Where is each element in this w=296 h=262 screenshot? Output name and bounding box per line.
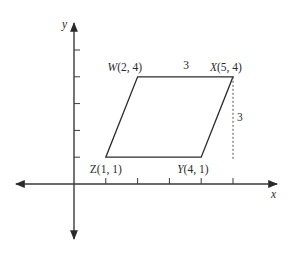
parallelogram-wxyz (106, 77, 233, 157)
x-axis-ticks (106, 178, 233, 184)
height-length-label: 3 (237, 111, 243, 123)
y-axis-label: y (61, 18, 68, 31)
vertex-label-x: X(5, 4) (209, 61, 242, 74)
y-axis-ticks (74, 50, 80, 157)
vertex-label-z: Z(1, 1) (90, 163, 122, 176)
coordinate-diagram: x y W(2, 4) X(5, 4) Y(4, 1) Z(1, 1) 3 3 (0, 0, 296, 262)
top-side-length-label: 3 (183, 59, 189, 71)
vertex-label-y: Y(4, 1) (177, 163, 208, 176)
vertex-label-w: W(2, 4) (108, 61, 143, 74)
x-axis-label: x (270, 188, 277, 200)
